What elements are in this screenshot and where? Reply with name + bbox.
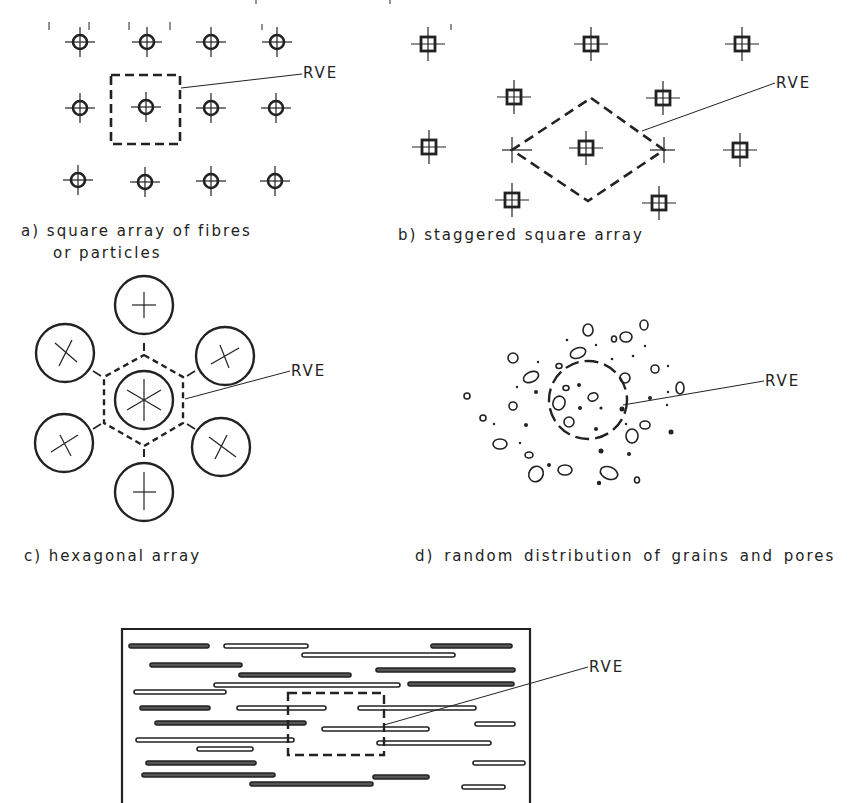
caption-b: b) staggered square array <box>398 228 644 243</box>
caption-c: c) hexagonal array <box>24 549 201 564</box>
panel-c-hexagonal-array <box>35 276 290 521</box>
rve-label-e: RVE <box>589 660 624 675</box>
figure-canvas <box>0 0 858 803</box>
panel-b-staggered-array <box>411 27 775 220</box>
panel-e-aligned-short-fibres <box>122 629 588 803</box>
top-clipped-text <box>49 0 451 30</box>
rve-label-d: RVE <box>765 374 800 389</box>
caption-d: d) random distribution of grains and por… <box>415 549 835 564</box>
rve-label-b: RVE <box>776 76 811 91</box>
panel-d-random-distribution <box>464 320 764 485</box>
caption-a-line2: or particles <box>53 246 162 261</box>
panel-a-square-array <box>63 27 302 197</box>
rve-label-a: RVE <box>303 66 338 81</box>
rve-diamond-b <box>512 98 664 201</box>
caption-a-line1: a) square array of fibres <box>21 224 252 239</box>
rve-label-c: RVE <box>291 364 326 379</box>
